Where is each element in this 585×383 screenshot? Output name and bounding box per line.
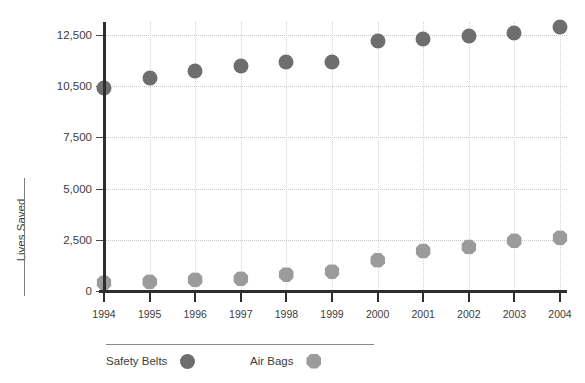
y-axis-tick-label: 0 xyxy=(26,285,92,297)
y-axis-title-rule xyxy=(24,178,25,296)
x-axis-tick-label: 1998 xyxy=(264,308,308,320)
data-point-safety-belts[interactable] xyxy=(325,54,340,69)
legend-label-safety-belts: Safety Belts xyxy=(106,355,167,367)
x-axis-tick-mark xyxy=(468,293,470,302)
y-axis-title-group: Lives Saved xyxy=(2,178,28,296)
x-axis-tick-label: 1996 xyxy=(173,308,217,320)
data-point-air-bags[interactable] xyxy=(553,230,568,245)
gridline-vertical xyxy=(378,22,379,290)
x-axis-tick-mark xyxy=(149,293,151,302)
x-axis-tick-mark xyxy=(194,293,196,302)
x-axis-tick-mark xyxy=(103,293,105,302)
data-point-air-bags[interactable] xyxy=(416,244,431,259)
data-point-air-bags[interactable] xyxy=(370,253,385,268)
y-axis-tick-label: 5,000 xyxy=(26,183,92,195)
legend-item-safety-belts[interactable]: Safety Belts xyxy=(106,352,195,370)
data-point-safety-belts[interactable] xyxy=(370,34,385,49)
x-axis-tick-mark xyxy=(331,293,333,302)
gridline-horizontal xyxy=(106,240,567,241)
x-axis-tick-label: 1994 xyxy=(82,308,126,320)
legend-divider xyxy=(106,344,374,345)
x-axis-tick-label: 2003 xyxy=(492,308,536,320)
gridline-horizontal xyxy=(106,35,567,36)
y-axis-line xyxy=(103,22,106,293)
gridline-vertical xyxy=(150,22,151,290)
legend-swatch-circle-icon xyxy=(180,354,195,369)
legend-label-air-bags: Air Bags xyxy=(250,355,293,367)
y-axis-tick-label: 12,500 xyxy=(26,29,92,41)
x-axis-tick-label: 2004 xyxy=(538,308,582,320)
data-point-safety-belts[interactable] xyxy=(233,58,248,73)
x-axis-tick-mark xyxy=(513,293,515,302)
x-axis-tick-label: 2001 xyxy=(401,308,445,320)
gridline-vertical xyxy=(195,22,196,290)
data-point-safety-belts[interactable] xyxy=(142,71,157,86)
gridline-vertical xyxy=(560,22,561,290)
data-point-air-bags[interactable] xyxy=(188,272,203,287)
x-axis-tick-mark xyxy=(422,293,424,302)
y-axis-tick-label: 10,500 xyxy=(26,80,92,92)
data-point-air-bags[interactable] xyxy=(507,233,522,248)
data-point-air-bags[interactable] xyxy=(142,274,157,289)
x-axis-tick-label: 1995 xyxy=(128,308,172,320)
x-axis-tick-label: 2002 xyxy=(447,308,491,320)
data-point-safety-belts[interactable] xyxy=(416,32,431,47)
data-point-air-bags[interactable] xyxy=(461,239,476,254)
x-axis-tick-label: 2000 xyxy=(356,308,400,320)
data-point-safety-belts[interactable] xyxy=(279,54,294,69)
gridline-horizontal xyxy=(106,137,567,138)
x-axis-tick-label: 1997 xyxy=(219,308,263,320)
x-axis-tick-label: 1999 xyxy=(310,308,354,320)
gridline-horizontal xyxy=(106,86,567,87)
gridline-horizontal xyxy=(106,189,567,190)
legend-item-air-bags[interactable]: Air Bags xyxy=(250,352,321,370)
data-point-safety-belts[interactable] xyxy=(507,25,522,40)
data-point-air-bags[interactable] xyxy=(233,271,248,286)
x-axis-tick-mark xyxy=(285,293,287,302)
scatter-chart: Lives Saved 02,5005,0007,50010,50012,500… xyxy=(0,0,585,383)
y-axis-tick-label: 2,500 xyxy=(26,234,92,246)
x-axis-tick-mark xyxy=(240,293,242,302)
x-axis-line xyxy=(99,290,567,293)
x-axis-tick-mark xyxy=(377,293,379,302)
data-point-air-bags[interactable] xyxy=(325,264,340,279)
data-point-air-bags[interactable] xyxy=(279,267,294,282)
x-axis-tick-mark xyxy=(559,293,561,302)
legend-swatch-octagon-icon xyxy=(306,354,321,369)
gridline-vertical xyxy=(514,22,515,290)
y-axis-tick-label: 7,500 xyxy=(26,131,92,143)
data-point-safety-belts[interactable] xyxy=(461,29,476,44)
data-point-safety-belts[interactable] xyxy=(188,63,203,78)
data-point-safety-belts[interactable] xyxy=(553,19,568,34)
